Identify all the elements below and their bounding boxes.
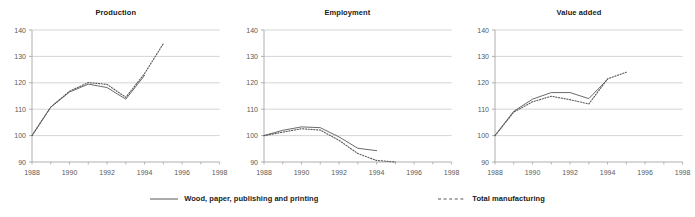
y-tick-label: 130 xyxy=(246,53,258,60)
y-tick-label: 140 xyxy=(14,27,26,34)
x-tick-label: 1988 xyxy=(24,169,40,176)
series-line-wood-paper-publishing-printing xyxy=(32,75,145,135)
axes xyxy=(264,30,452,162)
y-tick-label: 90 xyxy=(18,159,26,166)
y-tick-label: 110 xyxy=(246,106,257,113)
chart-title: Production xyxy=(0,8,232,17)
chart-panel-3: Value added90100110120130140198819901992… xyxy=(463,0,695,190)
x-tick-label: 1998 xyxy=(212,169,228,176)
chart-panel-row: Production901001101201301401988199019921… xyxy=(0,0,695,190)
x-tick-label: 1988 xyxy=(256,169,272,176)
y-tick-label: 100 xyxy=(478,132,490,139)
y-tick-label: 130 xyxy=(478,53,490,60)
y-axis-ticks: 90100110120130140 xyxy=(478,27,496,166)
x-tick-label: 1994 xyxy=(368,169,384,176)
chart-title: Value added xyxy=(463,8,695,17)
x-tick-label: 1994 xyxy=(137,169,153,176)
chart-legend: Wood, paper, publishing and printingTota… xyxy=(0,190,695,217)
gridlines xyxy=(495,30,683,136)
legend-line-swatch xyxy=(438,195,466,203)
series-line-wood-paper-publishing-printing xyxy=(495,79,608,135)
chart-panel-2: Employment901001101201301401988199019921… xyxy=(232,0,464,190)
y-tick-label: 110 xyxy=(478,106,489,113)
series-line-total-manufacturing xyxy=(264,129,395,162)
y-tick-label: 100 xyxy=(14,132,26,139)
y-tick-label: 120 xyxy=(478,79,490,86)
axes xyxy=(495,30,683,162)
chart-figure: Production901001101201301401988199019921… xyxy=(0,0,695,217)
x-tick-label: 1990 xyxy=(62,169,78,176)
x-tick-label: 1994 xyxy=(600,169,616,176)
series-line-total-manufacturing xyxy=(32,44,163,136)
legend-entry-total-manufacturing: Total manufacturing xyxy=(438,194,544,203)
y-tick-label: 130 xyxy=(14,53,26,60)
y-tick-label: 90 xyxy=(481,159,489,166)
x-tick-label: 1988 xyxy=(487,169,503,176)
y-tick-label: 140 xyxy=(246,27,258,34)
y-tick-label: 100 xyxy=(246,132,258,139)
chart-title: Employment xyxy=(232,8,464,17)
x-tick-label: 1998 xyxy=(675,169,691,176)
x-tick-label: 1996 xyxy=(637,169,653,176)
x-tick-label: 1996 xyxy=(406,169,422,176)
x-axis-ticks: 198819901992199419961998 xyxy=(24,169,227,176)
y-axis-ticks: 90100110120130140 xyxy=(14,27,32,166)
y-tick-label: 140 xyxy=(478,27,490,34)
legend-line-swatch xyxy=(150,195,178,203)
legend-label: Total manufacturing xyxy=(472,194,544,203)
series-line-total-manufacturing xyxy=(495,72,626,135)
x-tick-label: 1992 xyxy=(99,169,115,176)
chart-plot-area: 9010011012013014019881990199219941996199… xyxy=(463,20,695,190)
gridlines xyxy=(32,30,220,136)
x-tick-label: 1998 xyxy=(443,169,459,176)
x-tick-label: 1992 xyxy=(331,169,347,176)
x-tick-label: 1996 xyxy=(174,169,190,176)
y-tick-label: 120 xyxy=(246,79,258,86)
gridlines xyxy=(264,30,452,136)
legend-label: Wood, paper, publishing and printing xyxy=(184,194,318,203)
x-axis-ticks: 198819901992199419961998 xyxy=(256,169,459,176)
y-tick-label: 120 xyxy=(14,79,26,86)
chart-plot-area: 9010011012013014019881990199219941996199… xyxy=(0,20,232,190)
y-tick-label: 90 xyxy=(250,159,258,166)
x-tick-label: 1992 xyxy=(562,169,578,176)
chart-plot-area: 9010011012013014019881990199219941996199… xyxy=(232,20,464,190)
axes xyxy=(32,30,220,162)
x-tick-label: 1990 xyxy=(293,169,309,176)
x-axis-ticks: 198819901992199419961998 xyxy=(487,169,690,176)
x-tick-label: 1990 xyxy=(525,169,541,176)
chart-panel-1: Production901001101201301401988199019921… xyxy=(0,0,232,190)
legend-entry-wood-paper-publishing-printing: Wood, paper, publishing and printing xyxy=(150,194,318,203)
y-tick-label: 110 xyxy=(15,106,26,113)
y-axis-ticks: 90100110120130140 xyxy=(246,27,264,166)
